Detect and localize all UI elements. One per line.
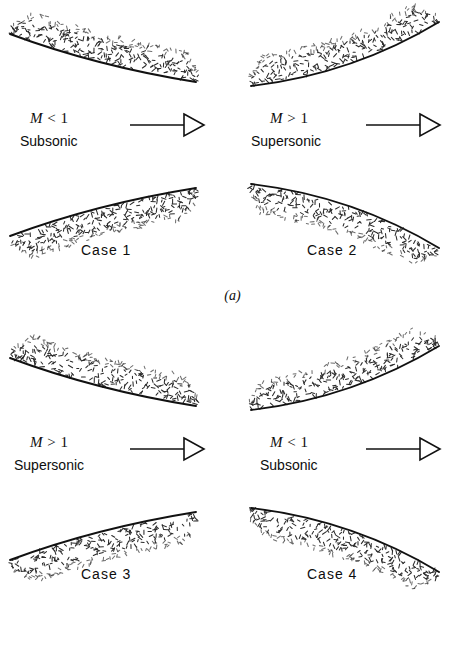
mach-number-label-case-1: M < 1 bbox=[30, 110, 68, 127]
case-label-3: Case 3 bbox=[81, 566, 131, 582]
mach-number-label-case-4: M < 1 bbox=[270, 434, 308, 451]
panel-a: M < 1 Subsonic Case 1 M > 1 Supersonic C… bbox=[0, 0, 465, 324]
mach-symbol: M bbox=[30, 434, 43, 450]
case-label-1: Case 1 bbox=[81, 242, 131, 258]
flow-regime-label-case-3: Supersonic bbox=[14, 457, 84, 473]
case-cell-2: M > 1 Supersonic Case 2 bbox=[233, 0, 465, 324]
case-cell-4: M < 1 Subsonic Case 4 bbox=[233, 324, 465, 648]
mach-relation: > 1 bbox=[47, 434, 68, 450]
mach-symbol: M bbox=[30, 110, 43, 126]
flow-arrow-icon-case-4 bbox=[366, 436, 444, 462]
flow-arrow-icon-case-3 bbox=[130, 436, 208, 462]
mach-relation: < 1 bbox=[287, 434, 308, 450]
flow-regime-label-case-1: Subsonic bbox=[20, 133, 78, 149]
case-cell-3: M > 1 Supersonic Case 3 bbox=[0, 324, 232, 648]
mach-relation: < 1 bbox=[47, 110, 68, 126]
mach-symbol: M bbox=[270, 434, 283, 450]
panel-letter-a: (a) bbox=[0, 288, 465, 304]
flow-regime-label-case-4: Subsonic bbox=[260, 457, 318, 473]
compressible-flow-duct-figure: M < 1 Subsonic Case 1 M > 1 Supersonic C… bbox=[0, 0, 465, 649]
flow-arrow-icon-case-1 bbox=[130, 112, 208, 138]
mach-relation: > 1 bbox=[287, 110, 308, 126]
case-label-2: Case 2 bbox=[307, 242, 357, 258]
case-label-4: Case 4 bbox=[307, 566, 357, 582]
flow-arrow-icon-case-2 bbox=[366, 112, 444, 138]
flow-regime-label-case-2: Supersonic bbox=[251, 133, 321, 149]
panel-b: M > 1 Supersonic Case 3 M < 1 Subsonic C… bbox=[0, 324, 465, 649]
mach-symbol: M bbox=[270, 110, 283, 126]
case-cell-1: M < 1 Subsonic Case 1 bbox=[0, 0, 232, 324]
mach-number-label-case-2: M > 1 bbox=[270, 110, 308, 127]
mach-number-label-case-3: M > 1 bbox=[30, 434, 68, 451]
